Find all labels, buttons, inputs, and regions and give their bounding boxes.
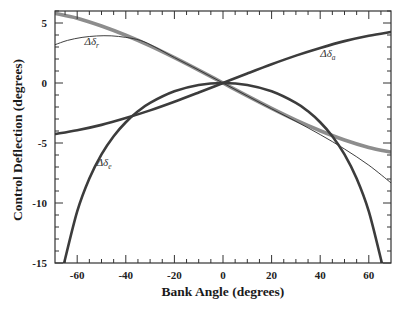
- x-tick-label: 60: [363, 269, 375, 281]
- axis-ticks: -60-40-20020406050-5-10-15: [32, 11, 391, 281]
- curve-label-e: Δδe: [96, 156, 113, 171]
- y-tick-label: -10: [32, 197, 47, 209]
- x-tick-label: 20: [266, 269, 278, 281]
- y-tick-label: 0: [42, 77, 48, 89]
- series-line-3: [64, 83, 382, 264]
- y-tick-label: -15: [32, 257, 47, 269]
- x-tick-label: -40: [118, 269, 133, 281]
- x-axis-title: Bank Angle (degrees): [162, 284, 285, 299]
- x-tick-label: -20: [167, 269, 182, 281]
- x-tick-label: 0: [220, 269, 226, 281]
- y-tick-label: 5: [42, 17, 48, 29]
- curve-label-a: Δδa: [319, 47, 336, 62]
- plot-curves: [55, 13, 390, 264]
- curve-label-r: Δδr: [83, 35, 99, 50]
- x-tick-label: -60: [70, 269, 85, 281]
- x-tick-label: 40: [315, 269, 327, 281]
- y-tick-label: -5: [38, 137, 48, 149]
- y-axis-title: Control Deflection (degrees): [10, 59, 25, 221]
- chart: -60-40-20020406050-5-10-15 ΔδrΔδaΔδe Ban…: [0, 0, 403, 311]
